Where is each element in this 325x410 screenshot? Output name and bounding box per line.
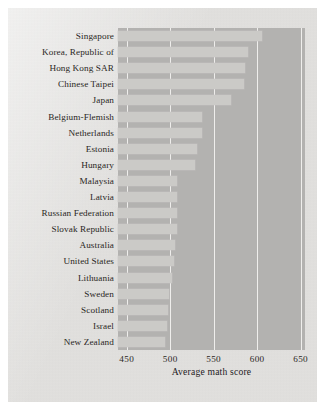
category-label: Estonia [14,144,114,154]
category-label: Slovak Republic [14,224,114,234]
category-label: Israel [14,321,114,331]
bar [118,289,169,299]
category-label: Russian Federation [14,208,114,218]
category-label: New Zealand [14,337,114,347]
bar [118,63,245,73]
bar [118,208,177,218]
category-label: Belgium-Flemish [14,112,114,122]
x-tick-label: 600 [250,353,265,365]
bar [118,95,231,105]
category-label: Hong Kong SAR [14,63,114,73]
x-axis-title: Average math score [118,366,305,377]
bar [118,31,262,41]
category-label: Scotland [14,305,114,315]
category-label: Latvia [14,192,114,202]
category-label: Hungary [14,160,114,170]
category-label: United States [14,256,114,266]
category-label: Lithuania [14,273,114,283]
bar [118,79,244,89]
bar [118,112,202,122]
bar [118,224,177,234]
bar [118,321,167,331]
x-tick-label: 650 [293,353,308,365]
chart-figure: SingaporeKorea, Republic ofHong Kong SAR… [0,0,325,410]
category-axis-labels: SingaporeKorea, Republic ofHong Kong SAR… [14,28,114,350]
bars-layer [118,28,305,350]
bar [118,273,172,283]
category-label: Singapore [14,31,114,41]
category-label: Korea, Republic of [14,47,114,57]
bar [118,144,197,154]
bar [118,176,177,186]
bar [118,47,248,57]
x-tick-label: 450 [119,353,134,365]
category-label: Malaysia [14,176,114,186]
category-label: Japan [14,95,114,105]
bar [118,305,168,315]
category-label: Australia [14,240,114,250]
x-tick-label: 500 [163,353,178,365]
bar [118,240,175,250]
x-tick-label: 550 [206,353,221,365]
bar [118,337,165,347]
bar [118,256,174,266]
bar [118,192,177,202]
x-axis-tick-labels: 450500550600650 [118,353,305,367]
bar [118,128,202,138]
category-label: Chinese Taipei [14,79,114,89]
bar [118,160,195,170]
category-label: Netherlands [14,128,114,138]
category-label: Sweden [14,289,114,299]
